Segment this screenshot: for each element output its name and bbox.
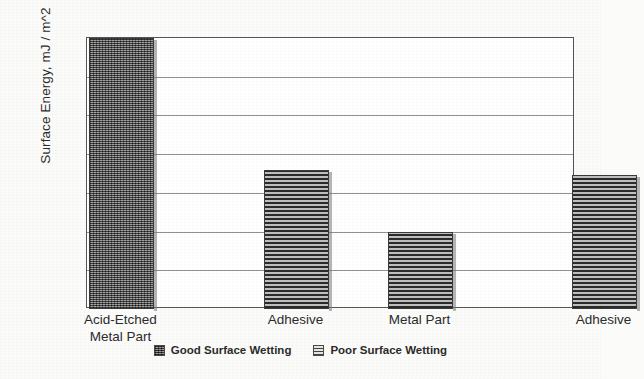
gridline [87, 77, 573, 78]
legend-item: Poor Surface Wetting [313, 344, 447, 356]
legend-swatch-icon [154, 345, 165, 356]
plot-area [86, 37, 574, 308]
bar [264, 170, 329, 309]
x-axis-tick-label: Acid-EtchedMetal Part [60, 311, 182, 345]
bar [388, 232, 453, 309]
bar-fill [89, 38, 154, 309]
legend-item: Good Surface Wetting [154, 344, 292, 356]
bar-edge-shadow [154, 40, 157, 311]
x-axis-tick-label-line: Adhesive [543, 311, 644, 328]
bar-fill [388, 232, 453, 309]
legend-swatch-icon [313, 345, 324, 356]
bar-edge-shadow [637, 177, 640, 311]
x-axis-tick-label-line: Acid-Etched [60, 311, 182, 328]
chart-legend: Good Surface WettingPoor Surface Wetting [0, 344, 601, 356]
gridline [87, 115, 573, 116]
legend-label: Good Surface Wetting [171, 344, 292, 356]
x-axis-tick-label-line: Metal Part [60, 328, 182, 345]
gridline [87, 154, 573, 155]
x-axis-tick-label: Adhesive [235, 311, 357, 328]
bar [89, 38, 154, 309]
x-axis-tick-label-line: Metal Part [359, 311, 481, 328]
x-axis-tick-label: Adhesive [543, 311, 644, 328]
bar-fill [572, 175, 637, 309]
x-axis-tick-label-line: Adhesive [235, 311, 357, 328]
bar-edge-shadow [453, 234, 456, 311]
bar [572, 175, 637, 309]
x-axis-tick-label: Metal Part [359, 311, 481, 328]
bar-edge-shadow [329, 172, 332, 311]
bar-fill [264, 170, 329, 309]
legend-label: Poor Surface Wetting [330, 344, 447, 356]
